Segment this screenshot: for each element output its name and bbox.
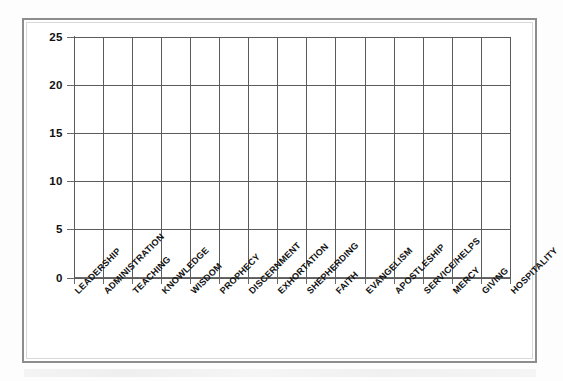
- y-axis-tick-label: 5: [56, 223, 63, 235]
- y-axis-tick: [67, 133, 74, 134]
- y-axis-tick: [67, 181, 74, 182]
- page-canvas: 2520151050 LEADERSHIPADMINISTRATIONTEACH…: [0, 0, 563, 381]
- gridline-vertical: [306, 37, 307, 278]
- gridline-vertical: [103, 37, 104, 278]
- gridline-horizontal: [74, 133, 511, 134]
- gridline-vertical: [132, 37, 133, 278]
- y-axis-tick: [67, 37, 74, 38]
- gridline-vertical: [394, 37, 395, 278]
- x-axis-category-text: HOSPITALITY: [509, 245, 560, 296]
- gridline-horizontal: [74, 85, 511, 86]
- gridline-vertical: [74, 37, 75, 278]
- gridline-horizontal: [74, 181, 511, 182]
- x-axis-label-group: LEADERSHIPADMINISTRATIONTEACHINGKNOWLEDG…: [74, 278, 511, 364]
- y-axis-tick-label: 25: [49, 31, 62, 43]
- gridline-horizontal: [74, 37, 511, 38]
- gridline-horizontal: [74, 229, 511, 230]
- gridline-vertical: [365, 37, 366, 278]
- gridline-vertical: [248, 37, 249, 278]
- gridline-vertical: [277, 37, 278, 278]
- page-scan-artifact: [24, 369, 536, 377]
- y-axis-tick: [67, 278, 74, 279]
- gridline-vertical: [423, 37, 424, 278]
- y-axis-tick-label: 15: [49, 127, 62, 139]
- gridline-vertical: [452, 37, 453, 278]
- chart-frame: 2520151050 LEADERSHIPADMINISTRATIONTEACH…: [22, 18, 537, 363]
- gridline-vertical: [335, 37, 336, 278]
- y-axis-tick: [67, 229, 74, 230]
- y-axis-tick-label: 10: [49, 175, 62, 187]
- x-axis-category-label: HOSPITALITY: [505, 241, 561, 297]
- y-axis-tick-label: 0: [56, 272, 63, 284]
- y-axis-tick: [67, 85, 74, 86]
- spiritual-gifts-chart: 2520151050 LEADERSHIPADMINISTRATIONTEACH…: [24, 20, 539, 365]
- y-axis-tick-label: 20: [49, 79, 62, 91]
- gridline-vertical: [190, 37, 191, 278]
- gridline-vertical: [510, 37, 511, 278]
- gridline-vertical: [219, 37, 220, 278]
